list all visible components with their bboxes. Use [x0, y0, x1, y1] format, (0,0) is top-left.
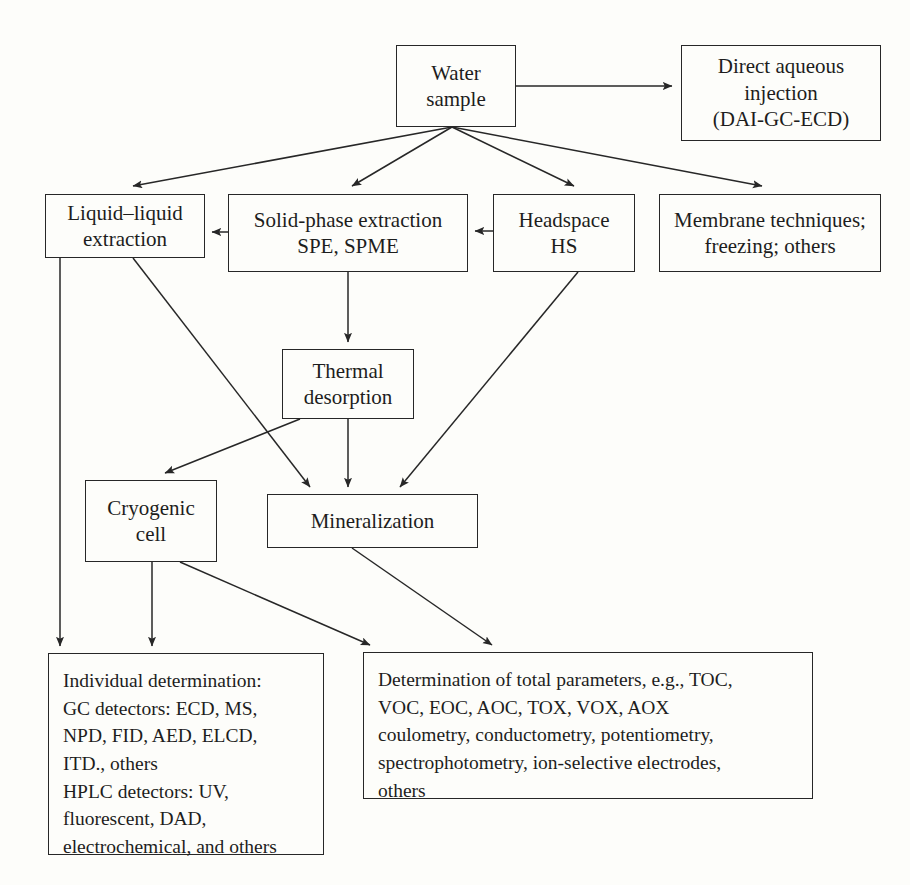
node-label-thermal-desorption: Thermal desorption — [304, 358, 393, 411]
edge-thermal-to-cryogenic — [165, 419, 300, 473]
edge-mineralization-to-total — [352, 548, 492, 645]
node-label-solid-phase-extraction: Solid-phase extraction SPE, SPME — [254, 207, 442, 260]
node-thermal-desorption[interactable]: Thermal desorption — [282, 349, 414, 419]
edge-water-to-liquid-liquid — [133, 127, 452, 186]
node-label-cryogenic-cell: Cryogenic cell — [107, 495, 194, 548]
node-membrane-techniques[interactable]: Membrane techniques; freezing; others — [659, 194, 881, 272]
node-headspace[interactable]: Headspace HS — [493, 194, 635, 272]
node-label-individual-determination: Individual determination: GC detectors: … — [49, 654, 289, 871]
node-direct-aqueous-injection[interactable]: Direct aqueous injection (DAI-GC-ECD) — [681, 45, 881, 141]
flowchart-canvas: Water sampleDirect aqueous injection (DA… — [0, 0, 910, 885]
node-total-parameters[interactable]: Determination of total parameters, e.g.,… — [363, 652, 813, 799]
edge-headspace-to-mineralization — [400, 272, 578, 487]
node-label-liquid-liquid-extraction: Liquid–liquid extraction — [67, 200, 183, 253]
node-label-headspace: Headspace HS — [519, 207, 610, 260]
edge-cryogenic-to-total — [180, 562, 370, 645]
node-water-sample[interactable]: Water sample — [396, 45, 516, 127]
node-label-water-sample: Water sample — [426, 60, 485, 113]
node-individual-determination[interactable]: Individual determination: GC detectors: … — [48, 653, 324, 855]
edge-water-to-headspace — [452, 127, 574, 186]
node-label-total-parameters: Determination of total parameters, e.g.,… — [364, 653, 745, 814]
node-label-membrane-techniques: Membrane techniques; freezing; others — [674, 207, 866, 260]
node-liquid-liquid-extraction[interactable]: Liquid–liquid extraction — [45, 194, 205, 258]
node-label-mineralization: Mineralization — [311, 508, 435, 534]
node-label-direct-aqueous-injection: Direct aqueous injection (DAI-GC-ECD) — [713, 53, 849, 132]
node-cryogenic-cell[interactable]: Cryogenic cell — [85, 480, 217, 562]
edge-water-to-spe — [352, 127, 452, 186]
node-solid-phase-extraction[interactable]: Solid-phase extraction SPE, SPME — [228, 194, 468, 272]
node-mineralization[interactable]: Mineralization — [267, 494, 478, 548]
